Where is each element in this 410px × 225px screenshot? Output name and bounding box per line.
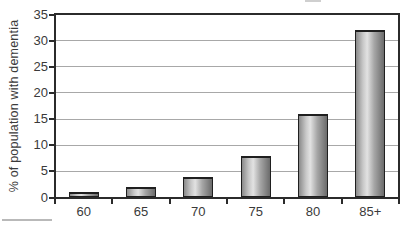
- plot-border-top: [54, 13, 400, 15]
- gridline-15: [56, 119, 398, 120]
- y-tick-30: [49, 40, 56, 42]
- bar-60: [69, 192, 99, 197]
- y-tick-25: [49, 66, 56, 68]
- y-tick-35: [49, 14, 56, 16]
- y-tick-label-15: 15: [14, 111, 48, 127]
- bar-65: [126, 187, 156, 197]
- x-tick-3: [226, 199, 228, 204]
- x-tick-label-85+: 85+: [348, 204, 392, 219]
- figure-caption-rule-fragment: [2, 219, 52, 221]
- dementia-prevalence-bar-chart: % of population with dementia 0510152025…: [0, 0, 410, 225]
- y-tick-5: [49, 170, 56, 172]
- y-tick-label-30: 30: [14, 33, 48, 49]
- y-tick-15: [49, 118, 56, 120]
- gridline-25: [56, 66, 398, 67]
- x-tick-4: [283, 199, 285, 204]
- gridline-5: [56, 171, 398, 172]
- x-tick-0: [54, 199, 56, 204]
- bar-85+: [355, 30, 385, 197]
- y-tick-label-10: 10: [14, 137, 48, 153]
- cropped-title-artifact: [305, 0, 321, 2]
- y-tick-label-20: 20: [14, 85, 48, 101]
- bar-75: [241, 156, 271, 198]
- gridline-30: [56, 40, 398, 41]
- bar-80: [298, 114, 328, 198]
- x-tick-1: [111, 199, 113, 204]
- x-tick-label-60: 60: [62, 204, 106, 219]
- plot-border-right: [398, 13, 400, 199]
- bar-70: [183, 177, 213, 198]
- y-tick-label-0: 0: [14, 190, 48, 206]
- x-tick-5: [341, 199, 343, 204]
- gridline-10: [56, 145, 398, 146]
- x-tick-2: [169, 199, 171, 204]
- x-tick-label-65: 65: [119, 204, 163, 219]
- y-tick-10: [49, 144, 56, 146]
- x-tick-6: [398, 199, 400, 204]
- x-tick-label-75: 75: [234, 204, 278, 219]
- x-tick-label-80: 80: [291, 204, 335, 219]
- y-tick-label-35: 35: [14, 7, 48, 23]
- x-tick-label-70: 70: [176, 204, 220, 219]
- y-tick-label-5: 5: [14, 163, 48, 179]
- gridline-20: [56, 92, 398, 93]
- y-tick-label-25: 25: [14, 59, 48, 75]
- y-tick-20: [49, 92, 56, 94]
